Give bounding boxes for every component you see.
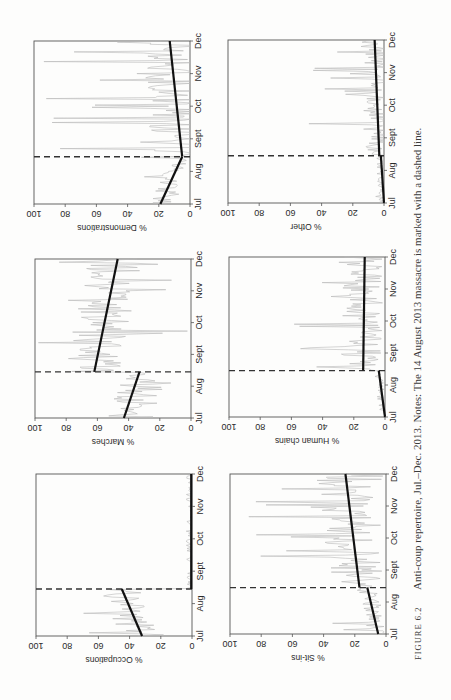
figure-label: FIGURE 6.2 <box>413 607 423 660</box>
daily-series-line <box>44 41 190 204</box>
daily-series-line <box>294 257 385 417</box>
time-axis-month-label: Aug <box>389 594 399 610</box>
plot-frame <box>228 40 384 203</box>
value-axis-tick-label: 20 <box>156 641 166 651</box>
value-axis-tick-label: 20 <box>350 639 360 649</box>
time-axis-month-label: Sept <box>388 343 398 362</box>
value-axis-tick-label: 60 <box>92 423 102 433</box>
time-axis-month-label: Oct <box>195 531 205 546</box>
value-axis-tick-label: 20 <box>154 209 164 219</box>
time-axis-month-label: Jul <box>193 198 203 210</box>
value-axis-tick-label: 40 <box>317 208 327 218</box>
time-axis-month-label: Sept <box>387 128 397 147</box>
time-axis-month-label: Sept <box>194 345 204 364</box>
time-axis-month-label: Nov <box>387 64 397 81</box>
panel-sit-ins: 020406080100% Sit-insJulAugSeptOctNovDec <box>222 466 399 663</box>
time-axis-month-label: Jul <box>195 630 205 642</box>
time-axis-month-label: Jul <box>389 628 399 640</box>
value-axis-tick-label: 100 <box>221 422 236 432</box>
value-axis-tick-label: 80 <box>256 639 266 649</box>
value-axis-tick-label: 80 <box>60 209 70 219</box>
value-axis-tick-label: 60 <box>285 208 295 218</box>
value-axis-tick-label: 0 <box>188 423 193 433</box>
value-axis-tick-label: 60 <box>287 639 297 649</box>
time-axis-month-label: Aug <box>194 378 204 394</box>
value-axis-title: % Other <box>290 222 321 232</box>
panel-human-chains: 020406080100% Human chainsJulAugSeptOctN… <box>221 249 398 446</box>
value-axis-tick-label: 0 <box>189 641 194 651</box>
trend-line-post <box>170 41 182 157</box>
time-axis-month-label: Dec <box>389 466 399 483</box>
time-axis-month-label: Aug <box>387 162 397 178</box>
trend-line-pre <box>160 157 182 204</box>
value-axis-tick-label: 100 <box>28 641 43 651</box>
time-axis-month-label: Jul <box>194 412 204 424</box>
value-axis-tick-label: 20 <box>349 422 359 432</box>
value-axis-tick-label: 40 <box>319 639 329 649</box>
value-axis-title: % Marches <box>92 437 135 447</box>
time-axis-month-label: Sept <box>193 129 203 148</box>
daily-series-line <box>249 474 384 634</box>
value-axis-tick-label: 0 <box>187 209 192 219</box>
panel-marches: 020406080100% MarchesJulAugSeptOctNovDec <box>27 251 204 447</box>
value-axis-tick-label: 80 <box>62 641 72 651</box>
value-axis-tick-label: 60 <box>93 641 103 651</box>
value-axis-tick-label: 100 <box>27 423 42 433</box>
time-axis-month-label: Jul <box>388 411 398 423</box>
time-axis-month-label: Nov <box>195 498 205 515</box>
time-axis-month-label: Sept <box>195 561 205 580</box>
value-axis-tick-label: 40 <box>318 422 328 432</box>
time-axis-month-label: Aug <box>388 377 398 393</box>
time-axis-month-label: Dec <box>195 466 205 483</box>
value-axis-tick-label: 80 <box>61 423 71 433</box>
value-axis-tick-label: 80 <box>254 208 264 218</box>
value-axis-tick-label: 20 <box>348 208 358 218</box>
value-axis-tick-label: 40 <box>123 209 133 219</box>
time-axis-month-label: Oct <box>194 315 204 330</box>
time-axis-month-label: Nov <box>388 281 398 298</box>
panel-other: 020406080100% OtherJulAugSeptOctNovDec <box>220 32 397 232</box>
figure-6-2-chart-grid: 020406080100% OccupationsJulAugSeptOctNo… <box>0 0 451 700</box>
value-axis-tick-label: 100 <box>26 209 41 219</box>
time-axis-month-label: Jul <box>387 197 397 209</box>
time-axis-month-label: Nov <box>194 282 204 299</box>
value-axis-tick-label: 60 <box>91 209 101 219</box>
time-axis-month-label: Oct <box>388 314 398 329</box>
time-axis-month-label: Dec <box>388 249 398 266</box>
panel-demonstrations: 020406080100% DemonstrationsJulAugSeptOc… <box>26 33 203 233</box>
time-axis-month-label: Oct <box>193 99 203 114</box>
value-axis-tick-label: 20 <box>155 423 165 433</box>
value-axis-tick-label: 0 <box>382 422 387 432</box>
value-axis-title: % Human chains <box>275 436 339 446</box>
time-axis-month-label: Oct <box>387 98 397 113</box>
panel-occupations: 020406080100% OccupationsJulAugSeptOctNo… <box>28 466 205 665</box>
figure-page: 020406080100% OccupationsJulAugSeptOctNo… <box>0 0 451 700</box>
value-axis-tick-label: 0 <box>381 208 386 218</box>
time-axis-month-label: Sept <box>389 560 399 579</box>
time-axis-month-label: Dec <box>193 33 203 50</box>
trend-line-pre <box>122 589 142 636</box>
daily-series-line <box>309 40 384 203</box>
figure-caption: FIGURE 6.2Anti-coup repertoire, Jul.–Dec… <box>411 127 423 660</box>
value-axis-tick-label: 80 <box>255 422 265 432</box>
time-axis-month-label: Nov <box>389 498 399 515</box>
value-axis-tick-label: 40 <box>125 641 135 651</box>
time-axis-month-label: Dec <box>387 32 397 49</box>
value-axis-tick-label: 100 <box>222 639 237 649</box>
trend-line-post <box>94 259 117 372</box>
trend-line-post <box>363 257 365 371</box>
value-axis-tick-label: 40 <box>124 423 134 433</box>
value-axis-tick-label: 100 <box>220 208 235 218</box>
time-axis-month-label: Aug <box>193 163 203 179</box>
value-axis-tick-label: 60 <box>286 422 296 432</box>
plot-frame <box>36 474 192 636</box>
daily-series-line <box>84 474 192 636</box>
value-axis-title: % Sit-ins <box>291 653 325 663</box>
value-axis-title: % Occupations <box>85 655 142 665</box>
trend-line-post <box>345 474 359 588</box>
figure-caption-text: Anti-coup repertoire, Jul.–Dec. 2013. No… <box>411 127 423 590</box>
value-axis-title: % Demonstrations <box>77 223 146 233</box>
time-axis-month-label: Dec <box>194 251 204 268</box>
time-axis-month-label: Aug <box>195 596 205 612</box>
time-axis-month-label: Oct <box>389 531 399 546</box>
